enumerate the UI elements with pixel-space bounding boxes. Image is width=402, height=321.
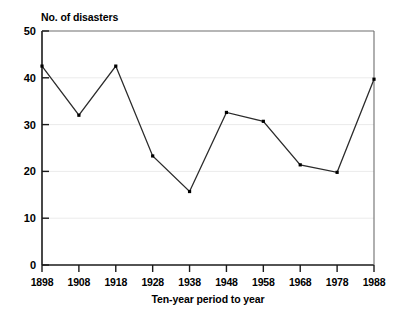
chart-svg: No. of disasters 01020304050 18981908191… bbox=[0, 0, 402, 321]
x-tick-label-1948: 1948 bbox=[215, 276, 238, 288]
data-point-1978 bbox=[336, 171, 339, 174]
data-point-1988 bbox=[372, 78, 375, 81]
y-tick-label-30: 30 bbox=[24, 119, 36, 131]
data-point-1928 bbox=[151, 154, 154, 157]
data-point-1908 bbox=[77, 114, 80, 117]
data-point-1898 bbox=[40, 65, 43, 68]
y-tick-label-0: 0 bbox=[30, 259, 36, 271]
y-axis-title: No. of disasters bbox=[41, 11, 118, 23]
data-point-1918 bbox=[114, 65, 117, 68]
y-tick-label-20: 20 bbox=[24, 165, 36, 177]
x-tick-label-1938: 1938 bbox=[178, 276, 201, 288]
data-point-1938 bbox=[188, 190, 191, 193]
x-tick-label-1968: 1968 bbox=[289, 276, 312, 288]
x-tick-label-1978: 1978 bbox=[326, 276, 349, 288]
x-tick-label-1898: 1898 bbox=[31, 276, 54, 288]
x-tick-label-1928: 1928 bbox=[141, 276, 164, 288]
data-point-1968 bbox=[299, 163, 302, 166]
x-tick-label-1988: 1988 bbox=[363, 276, 386, 288]
disasters-line-chart: No. of disasters 01020304050 18981908191… bbox=[0, 0, 402, 321]
y-tick-label-40: 40 bbox=[24, 72, 36, 84]
data-point-1958 bbox=[262, 120, 265, 123]
x-tick-label-1918: 1918 bbox=[104, 276, 127, 288]
y-tick-label-10: 10 bbox=[24, 212, 36, 224]
x-tick-label-1958: 1958 bbox=[252, 276, 275, 288]
x-tick-label-1908: 1908 bbox=[68, 276, 91, 288]
x-axis-title: Ten-year period to year bbox=[151, 293, 264, 305]
data-point-1948 bbox=[225, 111, 228, 114]
y-tick-label-50: 50 bbox=[24, 25, 36, 37]
